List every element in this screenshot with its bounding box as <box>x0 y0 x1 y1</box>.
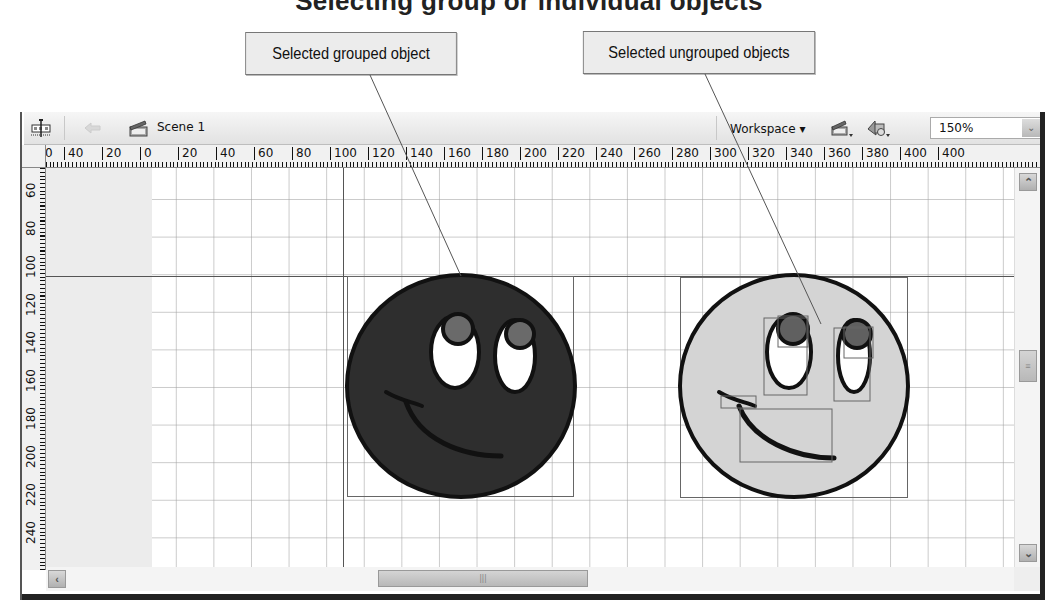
ruler-label: 180 <box>482 147 509 160</box>
ruler-label: 60 <box>24 183 38 198</box>
callout-grouped-label: Selected grouped object <box>272 44 430 64</box>
ruler-label: 220 <box>558 147 585 160</box>
zoom-level-value: 150% <box>939 121 973 135</box>
zoom-level-select[interactable]: 150% ⌄ <box>930 117 1042 139</box>
window-frame-right <box>1040 112 1045 600</box>
ruler-label: 80 <box>24 221 38 236</box>
horizontal-scrollbar[interactable]: ‹ ||| › <box>46 567 1014 591</box>
ruler-label: 180 <box>24 407 38 430</box>
ruler-label: 20 <box>178 147 197 160</box>
toolbar-separator <box>716 116 717 140</box>
scroll-down-button[interactable]: ⌄ <box>1019 544 1037 562</box>
ruler-label: 360 <box>824 147 851 160</box>
ruler-label: 0 <box>140 147 152 160</box>
ruler-label: 240 <box>24 521 38 544</box>
grouped-smiley[interactable] <box>344 272 580 502</box>
ruler-label: 260 <box>634 147 661 160</box>
ruler-label: 220 <box>24 483 38 506</box>
callout-ungrouped-label: Selected ungrouped objects <box>608 43 789 63</box>
toolbar-separator <box>64 116 65 140</box>
ruler-label: 320 <box>748 147 775 160</box>
horizontal-ruler: 0 40 20 0 20 40 60 80 100 120 140 160 18… <box>46 145 1042 168</box>
ruler-label: 400 <box>938 147 965 160</box>
symbol-shapes-dropdown-icon[interactable] <box>866 118 888 138</box>
scrollbar-corner <box>1014 567 1042 591</box>
ruler-label: 380 <box>862 147 889 160</box>
ruler-label: 300 <box>710 147 737 160</box>
clapperboard-icon <box>128 118 150 138</box>
ruler-label: 160 <box>444 147 471 160</box>
clapperboard-dropdown-icon[interactable] <box>830 118 852 138</box>
chevron-down-icon[interactable]: ⌄ <box>1022 119 1040 137</box>
ruler-label: 60 <box>254 147 273 160</box>
ruler-label: 160 <box>24 369 38 392</box>
ruler-label: 40 <box>64 147 83 160</box>
pasteboard-area <box>46 168 152 567</box>
timeline-icon[interactable] <box>30 118 52 138</box>
ruler-label: 400 <box>900 147 927 160</box>
ruler-label: 100 <box>24 255 38 278</box>
ruler-corner <box>22 145 46 168</box>
scene-name[interactable]: Scene 1 <box>157 120 205 134</box>
back-arrow-icon[interactable] <box>82 118 104 138</box>
flash-stage-window: Scene 1 Workspace ▾ 150% ⌄ 0 <box>20 112 1044 600</box>
edit-bar: Scene 1 Workspace ▾ 150% ⌄ <box>24 112 1042 145</box>
ruler-label: 140 <box>24 331 38 354</box>
ungrouped-smiley[interactable] <box>677 272 913 502</box>
ruler-label: 20 <box>102 147 121 160</box>
ruler-ticks <box>46 162 1042 167</box>
scroll-left-button[interactable]: ‹ <box>48 570 66 588</box>
ruler-label: 100 <box>330 147 357 160</box>
page-title: Selecting group or individual objects <box>0 0 1058 17</box>
ruler-label: 200 <box>520 147 547 160</box>
ruler-label: 200 <box>24 445 38 468</box>
vertical-scrollbar[interactable]: ⌃ ≡ ⌄ <box>1014 168 1042 567</box>
ruler-label: 240 <box>596 147 623 160</box>
ruler-label: 140 <box>406 147 433 160</box>
ruler-label: 80 <box>292 147 311 160</box>
vertical-ruler: 60 80 100 120 140 160 180 200 220 240 <box>22 168 46 570</box>
callout-ungrouped: Selected ungrouped objects <box>583 31 815 74</box>
ruler-label: 40 <box>216 147 235 160</box>
ruler-label: 0 <box>46 147 53 160</box>
ruler-label: 120 <box>368 147 395 160</box>
ruler-label: 340 <box>786 147 813 160</box>
window-frame-bottom <box>22 594 1045 600</box>
ruler-label: 120 <box>24 293 38 316</box>
horizontal-scroll-thumb[interactable]: ||| <box>378 570 588 587</box>
callout-grouped: Selected grouped object <box>245 32 457 75</box>
scroll-up-button[interactable]: ⌃ <box>1019 173 1037 191</box>
stage-canvas[interactable] <box>46 168 1014 567</box>
ruler-ticks <box>40 168 45 570</box>
ruler-label: 280 <box>672 147 699 160</box>
workspace-menu[interactable]: Workspace ▾ <box>730 122 805 136</box>
vertical-scroll-thumb[interactable]: ≡ <box>1019 350 1037 382</box>
